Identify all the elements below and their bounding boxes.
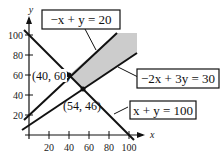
y-tick-label: 40 [13,90,23,101]
x-tick-label: 20 [44,142,54,153]
y-tick-label: 60 [13,70,23,81]
equation-label-2: −2x + 3y = 30 [141,71,215,86]
y-tick-label: 100 [8,30,23,41]
x-tick-label: 40 [64,142,74,153]
chart: 20 40 60 80 100 20 40 60 80 100 x y (40,… [0,0,222,158]
x-tick-label: 60 [84,142,94,153]
equation-box-2: −2x + 3y = 30 [137,69,219,88]
leader-line-eq3 [114,107,128,114]
x-tick-label: 80 [104,142,114,153]
leader-line-eq2 [118,67,138,77]
x-axis-arrow [137,132,145,138]
y-tick-label: 20 [13,110,23,121]
y-axis-arrow [26,16,32,24]
point-label-54-46: (54, 46) [63,99,101,113]
equation-box-3: x + y = 100 [130,101,196,119]
vertex-point-54-46 [81,87,86,92]
x-tick-label: 100 [122,142,137,153]
equation-label-1: −x + y = 20 [51,12,112,27]
y-axis-label: y [28,4,34,15]
x-axis-label: x [149,129,155,140]
equation-label-3: x + y = 100 [133,103,193,118]
equation-box-1: −x + y = 20 [42,10,120,29]
y-tick-label: 80 [13,50,23,61]
leader-line-eq1 [85,29,96,50]
point-label-40-60: (40, 60) [32,69,70,83]
line-neg-2x-plus-3y-30 [22,53,137,130]
